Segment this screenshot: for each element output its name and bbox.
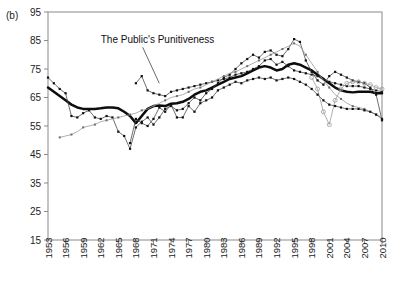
series-marker-5 [176,116,178,118]
series-marker-1 [299,41,301,43]
series-marker-2 [152,92,154,94]
series-marker-5 [264,78,266,80]
series-marker-1 [375,94,377,96]
series-marker-2 [299,71,301,73]
series-marker-1 [135,126,137,128]
series-marker-5 [287,76,289,78]
series-marker-1 [129,148,131,150]
series-marker-5 [316,94,318,96]
series-marker-4 [293,42,295,44]
series-marker-1 [188,102,190,104]
series-marker-5 [305,84,307,86]
series-marker-5 [188,105,190,107]
series-marker-1 [147,116,149,118]
series-marker-2 [229,76,231,78]
series-marker-1 [281,55,283,57]
series-marker-4 [258,59,260,61]
series-marker-1 [199,99,201,101]
x-tick-label: 1956 [60,237,71,258]
series-marker-2 [147,89,149,91]
series-marker-1 [164,108,166,110]
series-marker-2 [199,84,201,86]
series-marker-2 [170,91,172,93]
series-marker-2 [158,94,160,96]
y-tick-label: 25 [30,206,42,217]
series-marker-1 [205,92,207,94]
series-marker-2 [281,61,283,63]
x-tick-label: 2001 [324,237,335,258]
series-marker-5 [322,99,324,101]
series-marker-1 [316,79,318,81]
series-marker-5 [135,118,137,120]
x-tick-label: 2010 [377,237,388,258]
series-marker-1 [328,75,330,77]
annotation-label-0: The Public's Punitiveness [101,34,215,45]
series-marker-5 [129,142,131,144]
series-marker-5 [182,116,184,118]
x-tick-label: 1977 [183,237,194,258]
series-marker-1 [346,76,348,78]
plot-frame [48,12,382,240]
series-marker-1 [217,82,219,84]
series-marker-1 [275,54,277,56]
series-marker-1 [287,48,289,50]
series-marker-5 [223,86,225,88]
series-marker-5 [293,78,295,80]
series-marker-1 [53,82,55,84]
series-marker-5 [328,104,330,106]
series-marker-4 [223,75,225,77]
series-marker-4 [117,116,119,118]
series-marker-4 [270,54,272,56]
series-marker-5 [346,108,348,110]
series-marker-4 [141,109,143,111]
series-marker-1 [94,116,96,118]
series-marker-5 [334,105,336,107]
series-marker-1 [47,76,49,78]
series-marker-1 [64,92,66,94]
series-marker-1 [252,54,254,56]
series-marker-1 [270,49,272,51]
series-marker-2 [193,85,195,87]
series-marker-1 [264,51,266,53]
series-marker-4 [176,95,178,97]
series-marker-5 [217,89,219,91]
y-tick-label: 15 [30,235,42,246]
series-marker-4 [129,114,131,116]
series-marker-2 [270,58,272,60]
series-marker-4 [235,71,237,73]
series-marker-5 [199,102,201,104]
series-marker-5 [258,76,260,78]
series-marker-1 [240,62,242,64]
series-marker-1 [322,84,324,86]
series-marker-2 [223,78,225,80]
y-tick-label: 55 [30,121,42,132]
series-marker-1 [258,57,260,59]
series-marker-5 [141,122,143,124]
series-marker-4 [70,134,72,136]
series-marker-5 [275,79,277,81]
series-marker-2 [316,75,318,77]
series-marker-4 [106,119,108,121]
series-marker-2 [182,88,184,90]
series-marker-2 [275,64,277,66]
series-marker-4 [94,124,96,126]
series-marker-1 [234,68,236,70]
series-marker-1 [176,109,178,111]
series-marker-1 [59,88,61,90]
series-marker-4 [281,48,283,50]
series-marker-2 [369,88,371,90]
series-marker-2 [363,86,365,88]
series-marker-2 [305,72,307,74]
series-marker-5 [375,114,377,116]
series-marker-4 [305,54,307,56]
series-marker-5 [246,79,248,81]
series-marker-1 [311,71,313,73]
x-tick-label: 1968 [130,237,141,258]
series-marker-2 [334,82,336,84]
series-marker-1 [123,135,125,137]
series-marker-5 [311,88,313,90]
series-marker-4 [188,91,190,93]
series-marker-5 [211,96,213,98]
series-marker-4 [317,71,319,73]
series-marker-4 [164,99,166,101]
